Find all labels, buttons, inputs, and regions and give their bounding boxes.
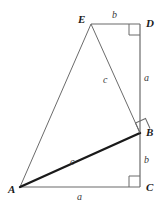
- vertex-label-B: B: [146, 127, 153, 138]
- segment-E-B: [91, 24, 140, 133]
- segment-label-E-B: c: [103, 75, 107, 85]
- segment-label-D-E: b: [112, 10, 117, 20]
- segment-label-B-D: a: [144, 73, 149, 83]
- vertex-label-C: C: [146, 182, 153, 193]
- segment-label-A-C: a: [77, 192, 82, 202]
- vertex-label-A: A: [8, 184, 15, 195]
- vertex-label-D: D: [146, 18, 154, 29]
- right-angle-marker-at-C: [129, 176, 140, 187]
- vertex-label-E: E: [78, 14, 85, 25]
- segment-label-A-B: c: [70, 157, 74, 167]
- segment-A-B: [20, 133, 140, 187]
- segment-label-C-B: b: [144, 155, 149, 165]
- segment-E-A: [20, 24, 91, 187]
- right-angle-marker-at-D: [129, 24, 140, 35]
- geometry-figure: [0, 0, 167, 207]
